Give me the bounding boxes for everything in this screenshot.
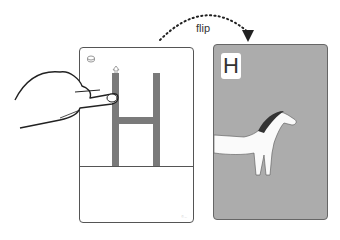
picture-card: H: [213, 44, 328, 220]
letter-tile: H: [221, 53, 241, 79]
copyright-text: © ...: [181, 215, 187, 219]
card-divider: [80, 166, 193, 167]
horse-icon: [214, 93, 314, 193]
flip-label: flip: [196, 22, 210, 34]
pointing-hand-icon: [0, 60, 130, 140]
